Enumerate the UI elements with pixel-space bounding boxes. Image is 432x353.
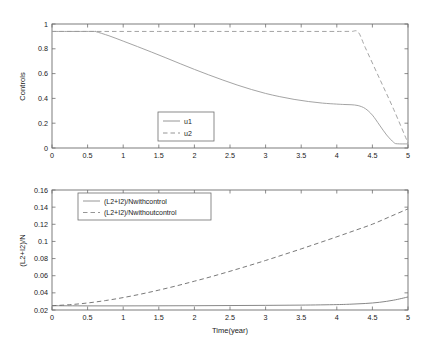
legend-label: (L2+I2)/Nwithoutcontrol bbox=[104, 209, 177, 217]
x-tick-label: 3.5 bbox=[296, 151, 306, 160]
x-tick-label: 0 bbox=[50, 313, 54, 322]
x-tick-label: 3 bbox=[264, 313, 268, 322]
data-series-line bbox=[52, 209, 408, 306]
x-tick-label: 4.5 bbox=[367, 151, 377, 160]
y-tick-label: 0.1 bbox=[38, 237, 48, 246]
figure-canvas: Controls 00.511.522.533.544.5500.20.40.6… bbox=[0, 0, 432, 353]
y-tick-label: 0.14 bbox=[34, 203, 48, 212]
y-tick-label: 0.6 bbox=[38, 69, 48, 78]
x-tick-label: 0.5 bbox=[83, 151, 93, 160]
x-tick-label: 4 bbox=[335, 151, 339, 160]
x-tick-label: 1 bbox=[121, 151, 125, 160]
x-tick-label: 0.5 bbox=[83, 313, 93, 322]
y-tick-label: 0.08 bbox=[34, 254, 48, 263]
legend-label: u1 bbox=[184, 118, 192, 125]
x-tick-label: 3.5 bbox=[296, 313, 306, 322]
x-tick-label: 1 bbox=[121, 313, 125, 322]
x-tick-label: 5 bbox=[406, 151, 410, 160]
x-tick-label: 4 bbox=[335, 313, 339, 322]
y-axis-label-controls: Controls bbox=[17, 72, 26, 101]
x-tick-label: 2 bbox=[192, 313, 196, 322]
y-tick-label: 0.16 bbox=[34, 186, 48, 195]
x-tick-label: 2.5 bbox=[225, 313, 235, 322]
chart-legend[interactable]: u1u2 bbox=[158, 112, 214, 141]
y-tick-label: 0.8 bbox=[38, 44, 48, 53]
y-tick-label: 0.04 bbox=[34, 288, 48, 297]
x-tick-label: 2.5 bbox=[225, 151, 235, 160]
y-tick-label: 0 bbox=[44, 144, 48, 153]
y-tick-label: 0.02 bbox=[34, 306, 48, 315]
data-series-line bbox=[52, 31, 408, 144]
x-tick-label: 4.5 bbox=[367, 313, 377, 322]
x-tick-label: 3 bbox=[264, 151, 268, 160]
data-series-line bbox=[52, 297, 408, 306]
y-tick-label: 0.4 bbox=[38, 94, 48, 103]
controls-chart-panel: Controls 00.511.522.533.544.5500.20.40.6… bbox=[0, 0, 432, 180]
y-axis-label-prevalence: (L2+I2)/N bbox=[18, 234, 27, 266]
prevalence-chart-panel: (L2+I2)/N Time(year) 00.511.522.533.544.… bbox=[0, 178, 432, 353]
x-tick-label: 1.5 bbox=[154, 313, 164, 322]
x-tick-label: 5 bbox=[406, 313, 410, 322]
chart-legend[interactable]: (L2+I2)/Nwithcontrol(L2+I2)/Nwithoutcont… bbox=[78, 193, 211, 220]
legend-label: u2 bbox=[184, 130, 192, 137]
x-axis-label-time: Time(year) bbox=[212, 326, 248, 335]
controls-plot-axes: 00.511.522.533.544.5500.20.40.60.81u1u2 bbox=[0, 0, 432, 180]
legend-label: (L2+I2)/Nwithcontrol bbox=[104, 198, 167, 206]
y-tick-label: 0.06 bbox=[34, 271, 48, 280]
y-tick-label: 1 bbox=[44, 20, 48, 29]
x-tick-label: 1.5 bbox=[154, 151, 164, 160]
y-tick-label: 0.12 bbox=[34, 220, 48, 229]
x-tick-label: 0 bbox=[50, 151, 54, 160]
y-tick-label: 0.2 bbox=[38, 119, 48, 128]
data-series-line bbox=[52, 31, 408, 143]
x-tick-label: 2 bbox=[192, 151, 196, 160]
